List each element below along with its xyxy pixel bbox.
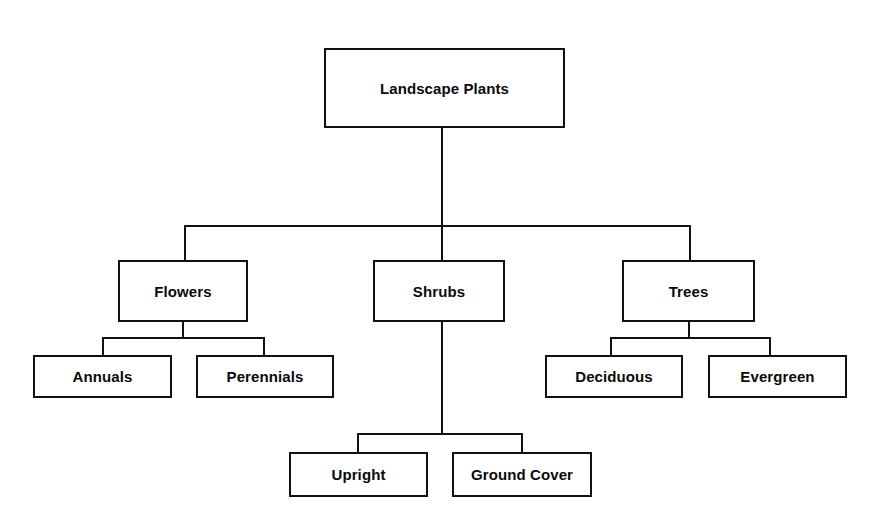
node-flowers: Flowers <box>118 260 248 322</box>
connector-bus-to-deciduous <box>610 337 612 356</box>
connector-root-stem <box>441 127 443 226</box>
connector-trees-stem <box>688 321 690 338</box>
node-perennials: Perennials <box>196 355 334 398</box>
node-trees: Trees <box>622 260 755 322</box>
node-label-deciduous: Deciduous <box>575 369 653 384</box>
hierarchy-diagram: Landscape Plants Flowers Shrubs Trees An… <box>0 0 884 526</box>
connector-shrubs-stem <box>441 321 443 434</box>
node-label-ground-cover: Ground Cover <box>471 467 573 482</box>
node-evergreen: Evergreen <box>708 355 847 398</box>
connector-level1-bus <box>184 225 691 227</box>
connector-bus-to-flowers <box>184 225 186 261</box>
connector-bus-to-annuals <box>102 337 104 356</box>
node-label-perennials: Perennials <box>227 369 304 384</box>
connector-trees-bus <box>610 337 771 339</box>
connector-bus-to-ground-cover <box>521 433 523 453</box>
connector-bus-to-shrubs <box>441 225 443 261</box>
node-label-landscape-plants: Landscape Plants <box>380 80 509 95</box>
node-deciduous: Deciduous <box>545 355 683 398</box>
node-label-flowers: Flowers <box>154 283 211 298</box>
connector-shrubs-bus <box>357 433 523 435</box>
node-landscape-plants: Landscape Plants <box>324 48 565 128</box>
connector-bus-to-trees <box>689 225 691 261</box>
node-annuals: Annuals <box>33 355 172 398</box>
connector-bus-to-perennials <box>263 337 265 356</box>
connector-flowers-bus <box>102 337 265 339</box>
node-label-evergreen: Evergreen <box>740 369 814 384</box>
node-shrubs: Shrubs <box>373 260 505 322</box>
node-label-trees: Trees <box>669 283 709 298</box>
node-ground-cover: Ground Cover <box>452 452 592 497</box>
node-label-annuals: Annuals <box>73 369 133 384</box>
connector-bus-to-evergreen <box>769 337 771 356</box>
connector-bus-to-upright <box>357 433 359 453</box>
connector-flowers-stem <box>182 321 184 338</box>
node-label-upright: Upright <box>331 467 385 482</box>
node-label-shrubs: Shrubs <box>413 283 465 298</box>
node-upright: Upright <box>289 452 428 497</box>
